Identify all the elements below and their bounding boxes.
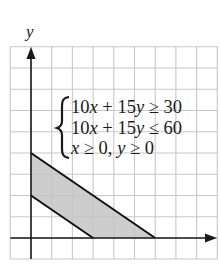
inequality-line-3: x ≥ 0, y ≥ 0 — [70, 138, 154, 158]
system-brace — [57, 97, 69, 158]
graph-of-inequality-system: y 10x + 15y ≥ 30 10x + 15y ≤ 60 x ≥ 0, y… — [0, 0, 220, 267]
x-axis-arrow-icon — [205, 234, 217, 243]
y-axis-arrow-icon — [27, 47, 36, 59]
inequality-line-1: 10x + 15y ≥ 30 — [71, 97, 182, 117]
y-axis-label: y — [24, 22, 34, 41]
inequality-line-2: 10x + 15y ≤ 60 — [71, 118, 182, 138]
